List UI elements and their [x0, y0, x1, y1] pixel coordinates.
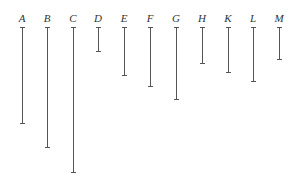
segment-line	[176, 27, 177, 99]
top-tick	[71, 27, 76, 28]
bottom-tick	[277, 59, 282, 60]
top-tick	[96, 27, 101, 28]
segment-label: K	[224, 13, 231, 24]
bottom-tick	[251, 81, 256, 82]
top-tick	[20, 27, 25, 28]
segment-label: L	[250, 13, 256, 24]
bottom-tick	[200, 63, 205, 64]
bottom-tick	[226, 72, 231, 73]
top-tick	[277, 27, 282, 28]
top-tick	[226, 27, 231, 28]
segment-label: C	[69, 13, 76, 24]
segment-label: E	[121, 13, 128, 24]
bottom-tick	[122, 75, 127, 76]
top-tick	[148, 27, 153, 28]
bottom-tick	[174, 99, 179, 100]
segment-line	[228, 27, 229, 72]
segment-line	[150, 27, 151, 86]
segment-label: A	[19, 13, 26, 24]
bottom-tick	[20, 123, 25, 124]
segment-label: M	[274, 13, 283, 24]
segment-label: F	[147, 13, 154, 24]
segment-line	[279, 27, 280, 59]
segment-label: D	[94, 13, 102, 24]
segment-label: B	[44, 13, 51, 24]
segment-line	[124, 27, 125, 75]
segment-line	[98, 27, 99, 51]
segment-line	[73, 27, 74, 172]
segment-line	[47, 27, 48, 147]
segment-line	[253, 27, 254, 81]
bottom-tick	[71, 172, 76, 173]
bottom-tick	[45, 147, 50, 148]
segment-label: G	[172, 13, 180, 24]
segment-line	[202, 27, 203, 63]
bottom-tick	[148, 86, 153, 87]
bottom-tick	[96, 51, 101, 52]
segment-label: H	[198, 13, 206, 24]
top-tick	[45, 27, 50, 28]
top-tick	[251, 27, 256, 28]
top-tick	[122, 27, 127, 28]
top-tick	[174, 27, 179, 28]
top-tick	[200, 27, 205, 28]
segment-line	[22, 27, 23, 123]
